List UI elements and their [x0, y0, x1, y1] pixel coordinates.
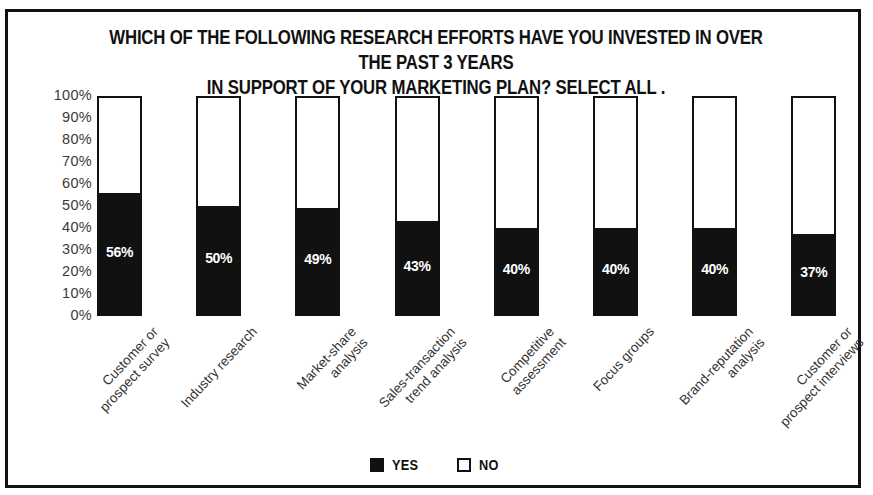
y-axis-tick: 40%	[22, 219, 92, 235]
bar-value-label-yes: 40%	[496, 261, 537, 314]
y-axis-tick: 60%	[22, 175, 92, 191]
legend-item-yes[interactable]: YES	[370, 456, 423, 473]
y-axis-tick: 0%	[22, 307, 92, 323]
bar-value-label-yes: 49%	[297, 251, 338, 314]
table-row[interactable]: 50%50%	[196, 96, 241, 316]
filled-square-icon	[370, 458, 384, 472]
bar-value-label-yes: 43%	[397, 258, 438, 314]
y-axis-tick: 20%	[22, 263, 92, 279]
table-row[interactable]: 60%40%	[593, 96, 638, 316]
bar-value-label-no: 60%	[496, 240, 537, 256]
plot-area: 100%90%80%70%60%50%40%30%20%10%0% 44%56%…	[8, 12, 864, 491]
table-row[interactable]: 60%40%	[494, 96, 539, 316]
table-row[interactable]: 51%49%	[295, 96, 340, 316]
legend-item-no[interactable]: NO	[457, 456, 502, 473]
bar-value-label-no: 63%	[793, 236, 834, 252]
bar-value-label-no: 57%	[397, 243, 438, 259]
y-axis-tick: 30%	[22, 241, 92, 257]
bar-value-label-yes: 40%	[694, 261, 735, 314]
table-row[interactable]: 44%56%	[97, 96, 142, 316]
y-axis-tick: 50%	[22, 197, 92, 213]
y-axis-tick: 70%	[22, 153, 92, 169]
legend-label-no: NO	[479, 456, 499, 473]
bar-value-label-no: 60%	[694, 240, 735, 256]
chart-legend: YES NO	[8, 456, 864, 473]
bar-value-label-yes: 37%	[793, 264, 834, 314]
bar-value-label-no: 60%	[595, 240, 636, 256]
y-axis-tick: 80%	[22, 131, 92, 147]
legend-label-yes: YES	[392, 456, 418, 473]
bar-value-label-yes: 56%	[99, 244, 140, 314]
y-axis-tick: 90%	[22, 109, 92, 125]
y-axis-tick: 10%	[22, 285, 92, 301]
table-row[interactable]: 57%43%	[395, 96, 440, 316]
empty-square-icon	[457, 458, 471, 472]
bar-value-label-yes: 50%	[198, 250, 239, 314]
table-row[interactable]: 63%37%	[791, 96, 836, 316]
table-row[interactable]: 60%40%	[692, 96, 737, 316]
y-axis-tick: 100%	[22, 87, 92, 103]
chart-frame: WHICH OF THE FOLLOWING RESEARCH EFFORTS …	[5, 9, 861, 488]
bar-value-label-yes: 40%	[595, 261, 636, 314]
